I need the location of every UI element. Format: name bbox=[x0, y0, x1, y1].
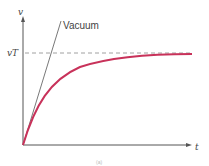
x-axis-label: t bbox=[195, 142, 199, 152]
terminal-velocity-label: vT bbox=[7, 48, 19, 58]
velocity-curve bbox=[23, 54, 192, 145]
y-axis-label: v bbox=[18, 7, 23, 17]
x-axis-arrow-icon bbox=[186, 143, 192, 147]
vacuum-label: Vacuum bbox=[63, 20, 99, 31]
velocity-time-diagram: v t vT Vacuum (a) bbox=[0, 0, 209, 166]
figure-caption: (a) bbox=[96, 159, 102, 165]
